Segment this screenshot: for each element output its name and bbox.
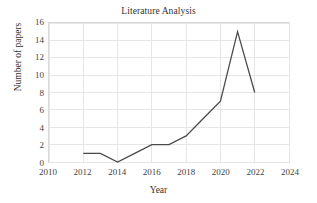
y-tick-label: 6: [24, 105, 44, 115]
plot-area: [48, 22, 290, 163]
chart-title: Literature Analysis: [0, 6, 317, 16]
y-tick-label: 4: [24, 123, 44, 133]
x-tick-label: 2020: [203, 167, 239, 177]
x-tick-label: 2014: [99, 167, 135, 177]
y-tick-label: 14: [24, 35, 44, 45]
x-tick-label: 2012: [65, 167, 101, 177]
y-tick-label: 8: [24, 88, 44, 98]
chart-figure: Literature Analysis Number of papers 024…: [0, 0, 317, 203]
data-series-line: [49, 23, 289, 162]
x-tick-label: 2010: [30, 167, 66, 177]
y-tick-label: 12: [24, 52, 44, 62]
y-tick-label: 10: [24, 70, 44, 80]
x-tick-label: 2018: [168, 167, 204, 177]
y-tick-label: 16: [24, 17, 44, 27]
x-axis-label: Year: [0, 185, 317, 195]
x-axis-tick-labels: 20102012201420162018202020222024: [48, 167, 290, 181]
x-tick-label: 2024: [272, 167, 308, 177]
y-tick-label: 2: [24, 140, 44, 150]
y-axis-tick-labels: 0246810121416: [22, 22, 44, 163]
x-tick-label: 2022: [237, 167, 273, 177]
x-tick-label: 2016: [134, 167, 170, 177]
